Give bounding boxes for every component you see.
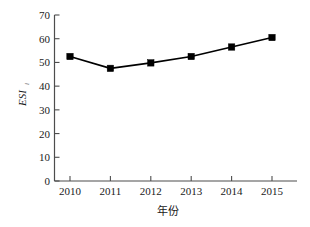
data-point-marker — [269, 34, 275, 40]
y-tick-label: 70 — [39, 9, 51, 21]
y-tick-label: 40 — [39, 80, 51, 92]
x-tick-label: 2011 — [100, 185, 122, 197]
y-axis-title-subscript: i — [23, 83, 31, 85]
x-tick-label: 2012 — [140, 185, 162, 197]
y-tick-label: 60 — [39, 33, 51, 45]
y-tick-label: 0 — [45, 175, 51, 187]
chart-container: 70 60 50 40 30 20 10 0 2010 2011 2012 20… — [0, 0, 310, 227]
y-tick-label: 20 — [39, 128, 51, 140]
y-tick-label: 30 — [39, 104, 51, 116]
y-tick-label: 50 — [39, 56, 51, 68]
x-tick-label: 2014 — [221, 185, 244, 197]
x-tick-label: 2013 — [180, 185, 203, 197]
x-tick-label: 2015 — [261, 185, 284, 197]
x-axis-title: 年份 — [157, 204, 179, 218]
y-axis-title-text: ESI — [16, 89, 28, 107]
line-chart: 70 60 50 40 30 20 10 0 2010 2011 2012 20… — [0, 0, 310, 227]
y-tick-label: 10 — [39, 151, 51, 163]
data-point-marker — [188, 53, 194, 59]
data-point-marker — [228, 44, 234, 50]
data-point-marker — [107, 65, 113, 71]
data-point-marker — [67, 53, 73, 59]
data-point-marker — [148, 60, 154, 66]
x-tick-label: 2010 — [59, 185, 82, 197]
